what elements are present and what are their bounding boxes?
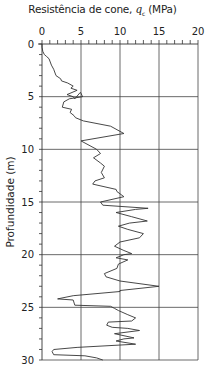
y-axis-label: Profundidade (m) — [4, 156, 16, 247]
x-tick-label: 10 — [114, 26, 127, 37]
x-tick-label: 20 — [192, 26, 205, 37]
x-tick-label: 5 — [78, 26, 84, 37]
grid-lines — [42, 44, 198, 360]
y-tick-label: 10 — [21, 144, 34, 155]
y-tick-label: 20 — [21, 249, 34, 260]
y-tick-label: 30 — [21, 355, 34, 366]
x-tick-label: 15 — [153, 26, 166, 37]
axes — [38, 40, 198, 360]
y-tick-label: 5 — [28, 91, 34, 102]
x-tick-labels: 05101520 — [39, 26, 205, 37]
y-tick-labels: 051015202530 — [21, 39, 34, 366]
y-tick-label: 15 — [21, 197, 34, 208]
y-tick-label: 0 — [28, 39, 34, 50]
y-tick-label: 25 — [21, 302, 34, 313]
cpt-profile-chart: 05101520 051015202530 Profundidade (m) — [0, 0, 205, 372]
x-tick-label: 0 — [39, 26, 45, 37]
